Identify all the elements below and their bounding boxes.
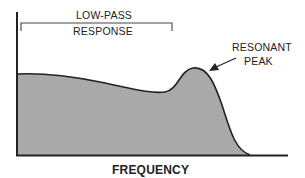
frequency-response-diagram [0,0,305,178]
response-area [18,68,250,155]
peak-label-line1: RESONANT [232,41,292,53]
bracket-label-line1: LOW-PASS [76,9,132,21]
peak-arrow-shaft [216,58,236,67]
peak-arrow-head [209,63,219,71]
peak-label-line2: PEAK [244,55,273,67]
bracket-label-line2: RESPONSE [73,25,133,37]
x-axis-label: FREQUENCY [112,163,189,177]
